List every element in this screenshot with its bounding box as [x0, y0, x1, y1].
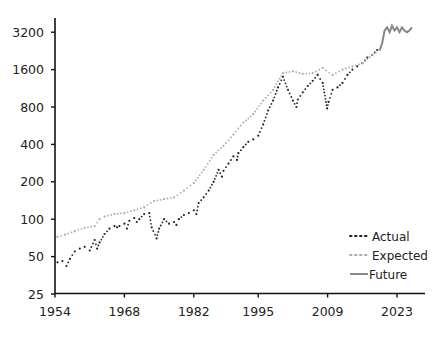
series-dot-expected	[127, 211, 129, 213]
series-dot-expected	[260, 103, 262, 105]
series-dot-actual	[98, 245, 100, 247]
data-point-expected	[272, 89, 274, 91]
data-point-actual	[118, 225, 120, 227]
data-point-actual	[247, 141, 249, 143]
series-dot-actual	[216, 172, 218, 174]
data-point-actual	[222, 170, 224, 172]
series-dot-expected	[96, 222, 98, 224]
series-dot-actual	[92, 243, 94, 245]
y-tick-label: 200	[20, 174, 44, 189]
series-dot-expected	[170, 197, 172, 199]
series-dot-actual	[230, 159, 232, 161]
data-point-expected	[143, 206, 145, 208]
series-dot-expected	[140, 207, 142, 209]
legend-label-future: Future	[369, 268, 407, 282]
series-dot-actual	[150, 219, 152, 221]
x-tick-label: 2023	[381, 304, 413, 319]
data-point-expected	[123, 212, 125, 214]
data-point-actual	[148, 212, 150, 214]
data-point-expected	[94, 225, 96, 227]
data-point-actual	[183, 214, 185, 216]
series-dot-expected	[228, 139, 230, 141]
data-point-actual	[84, 246, 86, 248]
series-dot-actual	[157, 234, 159, 236]
data-point-actual	[56, 261, 58, 263]
series-dot-expected	[364, 60, 366, 62]
data-point-actual	[267, 109, 269, 111]
series-dot-expected	[160, 199, 162, 201]
series-dot-actual	[266, 113, 268, 115]
data-point-actual	[69, 258, 71, 260]
data-point-actual	[312, 80, 314, 82]
series-dot-expected	[254, 111, 256, 113]
x-tick-label: 1954	[39, 304, 71, 319]
series-dot-actual	[95, 243, 97, 245]
series-dot-expected	[256, 108, 258, 110]
series-dot-actual	[219, 172, 221, 174]
legend-label-expected: Expected	[372, 249, 428, 263]
series-dot-actual	[290, 96, 292, 98]
series-dot-expected	[247, 118, 249, 120]
series-dot-expected	[71, 232, 73, 234]
series-dot-actual	[269, 106, 271, 108]
x-tick-label: 1995	[242, 304, 274, 319]
data-point-expected	[292, 70, 294, 72]
series-dot-actual	[166, 221, 168, 223]
data-point-actual	[65, 265, 67, 267]
data-point-expected	[203, 169, 205, 171]
series-dot-actual	[237, 156, 239, 158]
series-dot-expected	[285, 72, 287, 74]
x-tick-label: 2009	[312, 304, 344, 319]
data-point-expected	[252, 113, 254, 115]
series-dot-expected	[309, 72, 311, 74]
series-dot-expected	[270, 92, 272, 94]
data-point-expected	[133, 209, 135, 211]
data-point-actual	[126, 228, 128, 230]
y-tick-label: 800	[20, 100, 44, 115]
axes	[55, 18, 425, 294]
series-dot-actual	[150, 223, 152, 225]
series-layer	[56, 26, 412, 267]
series-dot-expected	[276, 83, 278, 85]
data-point-actual	[173, 221, 175, 223]
data-point-expected	[351, 65, 353, 67]
y-tick-label: 100	[20, 212, 44, 227]
series-dot-expected	[318, 69, 320, 71]
series-dot-actual	[276, 90, 278, 92]
data-point-expected	[213, 154, 215, 156]
y-tick-label: 25	[28, 287, 44, 302]
series-dot-actual	[286, 86, 288, 88]
series-dot-actual	[330, 93, 332, 95]
series-dot-actual	[162, 221, 164, 223]
series-dot-expected	[274, 86, 276, 88]
data-point-actual	[376, 49, 378, 51]
data-point-actual	[136, 221, 138, 223]
data-point-actual	[257, 135, 259, 137]
series-dot-actual	[141, 216, 143, 218]
series-dot-expected	[77, 229, 79, 231]
series-dot-actual	[325, 101, 327, 103]
series-dot-expected	[90, 226, 92, 228]
series-actual	[56, 49, 378, 267]
data-point-actual	[61, 260, 63, 262]
data-point-actual	[203, 196, 205, 198]
data-point-actual	[232, 155, 234, 157]
series-dot-actual	[275, 93, 277, 95]
series-dot-actual	[322, 85, 324, 87]
data-point-actual	[277, 86, 279, 88]
series-dot-actual	[264, 120, 266, 122]
data-point-actual	[252, 138, 254, 140]
series-dot-expected	[335, 72, 337, 74]
series-dot-actual	[200, 199, 202, 201]
series-dot-expected	[186, 187, 188, 189]
series-expected	[56, 49, 380, 238]
data-point-actual	[237, 152, 239, 154]
series-dot-actual	[294, 103, 296, 105]
series-dot-expected	[328, 72, 330, 74]
data-point-expected	[232, 134, 234, 136]
y-tick-label: 3200	[12, 25, 44, 40]
series-dot-expected	[67, 233, 69, 235]
data-point-expected	[262, 100, 264, 102]
series-dot-expected	[280, 75, 282, 77]
data-point-actual	[242, 146, 244, 148]
